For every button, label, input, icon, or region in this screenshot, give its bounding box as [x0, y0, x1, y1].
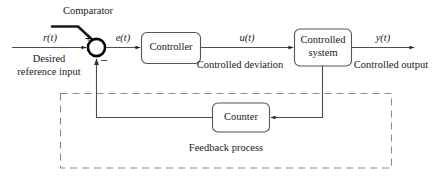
controller-block-label: Controller	[149, 41, 192, 52]
diagram-canvas	[0, 0, 438, 186]
summing-junction-minus-sign: –	[101, 54, 107, 66]
output-signal-symbol: y(t)	[376, 32, 391, 43]
feedback-process-label: Feedback process	[189, 142, 263, 153]
summing-junction-plus-sign: +	[85, 33, 91, 45]
reference-signal-description-line2: reference input	[17, 66, 80, 77]
feedback-tap-line	[271, 66, 323, 118]
controlled-system-block-label-line2: system	[308, 47, 337, 58]
feedback-return-line	[97, 59, 213, 118]
output-signal-description: Controlled output	[354, 59, 428, 70]
block-diagram: Comparator r(t) Desired reference input …	[0, 0, 438, 186]
comparator-label: Comparator	[63, 5, 113, 16]
control-signal-description: Controlled deviation	[197, 59, 284, 70]
control-signal-symbol: u(t)	[239, 32, 254, 43]
controlled-system-block-label-line1: Controlled	[301, 34, 346, 45]
error-signal-symbol: e(t)	[116, 32, 131, 43]
reference-signal-symbol: r(t)	[43, 32, 57, 43]
reference-signal-description-line1: Desired	[33, 53, 66, 64]
counter-block-label: Counter	[224, 111, 258, 122]
